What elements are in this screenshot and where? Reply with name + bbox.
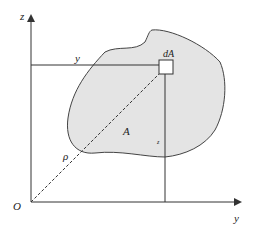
y-coordinate-label: y [74, 52, 80, 64]
radius-label: ρ [62, 150, 68, 162]
origin-label: O [13, 200, 21, 212]
moment-of-inertia-diagram: z y O y dA A z ρ [0, 0, 253, 235]
area-region [67, 30, 224, 157]
area-label: A [122, 125, 130, 137]
z-axis-label: z [19, 10, 25, 22]
element-label: dA [163, 48, 175, 59]
element-dA [159, 60, 173, 74]
y-axis-label: y [233, 212, 239, 224]
